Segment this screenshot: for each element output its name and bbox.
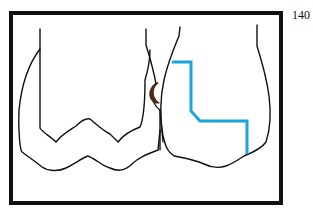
page-number: 140: [292, 8, 310, 23]
preparation-outline: [172, 62, 247, 154]
dental-diagram: 140: [0, 0, 313, 216]
decay-crescent-icon: [149, 82, 160, 104]
left-tooth-inner-contour: [40, 49, 150, 142]
diagram-canvas: [0, 0, 313, 216]
right-tooth-outline: [161, 25, 270, 167]
